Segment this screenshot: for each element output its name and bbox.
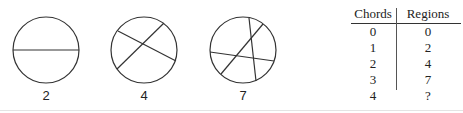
- table-row: 0 0: [351, 24, 461, 40]
- table-row: 1 2: [351, 40, 461, 56]
- regions-cell: 0: [395, 24, 461, 40]
- column-header-chords: Chords: [351, 6, 395, 23]
- circle-one-chord: [13, 17, 79, 83]
- table-header: Chords Regions: [351, 6, 461, 24]
- regions-cell: 4: [395, 56, 461, 72]
- chord-regions-figure: 2 4 7 Chords Regions 0 0 1 2 2 4 3 7 4 ?: [0, 0, 463, 113]
- table-column-divider: [396, 8, 397, 90]
- regions-cell: ?: [395, 88, 461, 104]
- circle-label-regions: 7: [228, 88, 258, 103]
- regions-cell: 7: [395, 72, 461, 88]
- circle-label-regions: 4: [129, 88, 159, 103]
- chords-cell: 4: [351, 88, 395, 104]
- chords-cell: 3: [351, 72, 395, 88]
- circle-three-chords: [210, 17, 276, 83]
- regions-cell: 2: [395, 40, 461, 56]
- chords-cell: 2: [351, 56, 395, 72]
- chords-cell: 1: [351, 40, 395, 56]
- circle-label-regions: 2: [31, 88, 61, 103]
- chords-cell: 0: [351, 24, 395, 40]
- chords-regions-table: Chords Regions 0 0 1 2 2 4 3 7 4 ?: [351, 6, 461, 104]
- column-header-regions: Regions: [395, 6, 461, 23]
- table-row: 4 ?: [351, 88, 461, 104]
- table-row: 2 4: [351, 56, 461, 72]
- circle-two-chords: [111, 17, 177, 83]
- bottom-divider: [0, 110, 463, 111]
- table-row: 3 7: [351, 72, 461, 88]
